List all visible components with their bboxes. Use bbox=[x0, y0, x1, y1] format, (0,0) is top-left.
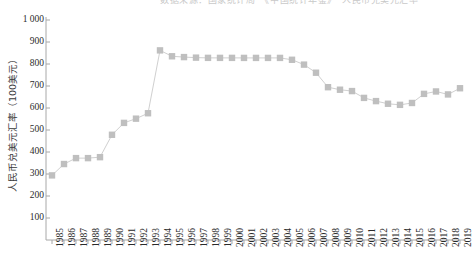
x-tick-label: 2008 bbox=[332, 228, 342, 247]
x-tick-label: 1994 bbox=[164, 228, 174, 247]
x-tick-label: 2018 bbox=[452, 228, 462, 247]
x-tick-label: 1995 bbox=[176, 228, 186, 247]
x-tick-label: 1987 bbox=[80, 228, 90, 247]
x-tick-label: 1988 bbox=[92, 228, 102, 247]
x-tick-label: 2005 bbox=[296, 228, 306, 247]
x-tick-label: 1992 bbox=[140, 228, 150, 247]
x-tick-label: 2002 bbox=[260, 228, 270, 247]
x-tick-label: 1993 bbox=[152, 228, 162, 247]
x-tick-label: 2001 bbox=[248, 228, 258, 247]
x-tick-label: 2006 bbox=[308, 228, 318, 247]
x-tick-label: 2010 bbox=[356, 228, 366, 247]
x-tick-label: 2004 bbox=[284, 228, 294, 247]
x-tick-label: 2014 bbox=[404, 228, 414, 247]
x-tick-label: 2019 bbox=[464, 228, 474, 247]
x-tick-label: 1998 bbox=[212, 228, 222, 247]
x-tick-label: 2013 bbox=[392, 228, 402, 247]
x-tick-label: 2015 bbox=[416, 228, 426, 247]
x-tick-label: 2012 bbox=[380, 228, 390, 247]
x-tick-label: 2000 bbox=[236, 228, 246, 247]
x-tick-label: 2003 bbox=[272, 228, 282, 247]
x-tick-label: 2016 bbox=[428, 228, 438, 247]
x-tick-label: 2007 bbox=[320, 228, 330, 247]
x-tick-label: 1985 bbox=[56, 228, 66, 247]
x-tick-label: 1997 bbox=[200, 228, 210, 247]
x-tick-label: 1996 bbox=[188, 228, 198, 247]
x-tick-label: 1989 bbox=[104, 228, 114, 247]
x-tick-label: 1999 bbox=[224, 228, 234, 247]
x-tick-label: 2017 bbox=[440, 228, 450, 247]
x-tick-label: 2009 bbox=[344, 228, 354, 247]
x-tick-label: 1986 bbox=[68, 228, 78, 247]
x-tick-label: 1990 bbox=[116, 228, 126, 247]
x-tick-label: 2011 bbox=[368, 228, 378, 247]
x-tick-label: 1991 bbox=[128, 228, 138, 247]
